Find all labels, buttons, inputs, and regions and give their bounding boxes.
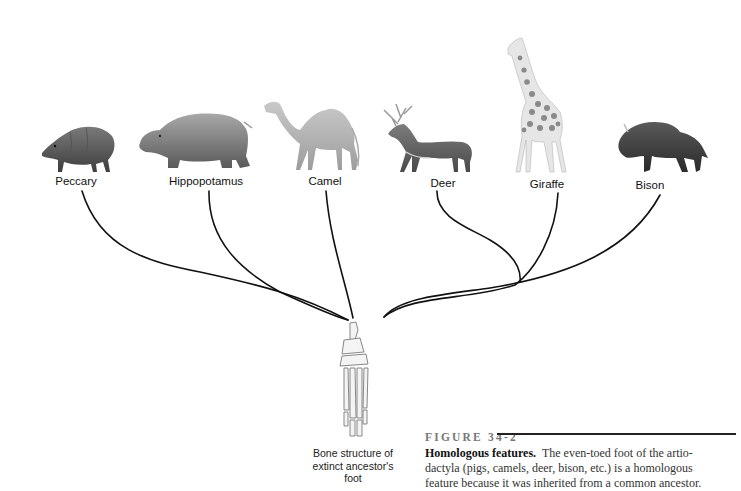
peccary-icon xyxy=(42,127,115,172)
label-camel: Camel xyxy=(308,175,341,187)
branch-lines xyxy=(82,191,660,320)
label-deer: Deer xyxy=(431,177,456,189)
branch-peccary xyxy=(82,191,348,320)
branch-giraffe xyxy=(384,193,558,317)
caption-line-2: dactyla (pigs, camels, deer, bison, etc.… xyxy=(425,461,741,476)
label-hippopotamus: Hippopotamus xyxy=(169,175,243,187)
ancestor-label-line-3: foot xyxy=(298,472,408,485)
camel-icon xyxy=(264,102,359,170)
deer-icon xyxy=(384,104,472,172)
giraffe-icon xyxy=(508,38,566,172)
ancestor-foot-label: Bone structure of extinct ancestor's foo… xyxy=(298,447,408,485)
label-peccary: Peccary xyxy=(55,175,97,187)
caption-line-3: feature because it was inherited from a … xyxy=(425,476,741,491)
branch-bison xyxy=(384,195,660,317)
caption-text-1: The even-toed foot of the artio- xyxy=(542,446,693,460)
foot-bones-icon xyxy=(340,322,368,436)
figure-caption: FIGURE 34-2 Homologous features. The eve… xyxy=(425,427,741,491)
caption-body: Homologous features. The even-toed foot … xyxy=(425,446,741,491)
caption-line-1: Homologous features. The even-toed foot … xyxy=(425,446,741,461)
caption-rule xyxy=(497,433,736,435)
ancestor-label-line-2: extinct ancestor's xyxy=(298,460,408,473)
ancestor-label-line-1: Bone structure of xyxy=(298,447,408,460)
bison-icon xyxy=(618,122,708,172)
label-bison: Bison xyxy=(636,179,665,191)
caption-title: Homologous features. xyxy=(425,446,536,460)
branch-camel xyxy=(326,191,353,318)
branch-deer xyxy=(437,191,520,282)
label-giraffe: Giraffe xyxy=(530,178,564,190)
branch-hippopotamus xyxy=(209,191,348,320)
hippopotamus-icon xyxy=(139,114,252,169)
